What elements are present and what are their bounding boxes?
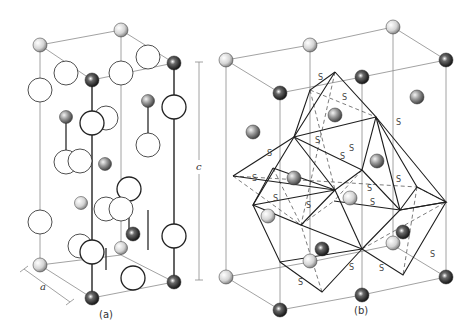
atom-sphere-mid bbox=[287, 171, 301, 185]
sulfur-label: S bbox=[396, 118, 401, 127]
sulfur-label: S bbox=[298, 278, 303, 287]
sulfur-label: S bbox=[315, 136, 320, 145]
atom-sphere-light bbox=[261, 209, 275, 223]
anion-open-circle bbox=[28, 78, 52, 102]
unit-cell-bottom-edge bbox=[40, 255, 174, 298]
anion-open-circle bbox=[80, 111, 104, 135]
sulfur-label: S bbox=[273, 194, 278, 203]
anion-open-circle bbox=[109, 61, 133, 85]
atom-sphere-dark bbox=[273, 303, 287, 317]
atom-sphere-mid bbox=[410, 90, 424, 104]
sulfur-label: S bbox=[342, 93, 347, 102]
anion-open-circle bbox=[136, 45, 160, 69]
atom-sphere-light bbox=[386, 236, 400, 250]
sulfur-label: S bbox=[340, 152, 345, 161]
atom-sphere-light bbox=[115, 242, 128, 255]
atom-sphere-light bbox=[33, 38, 47, 52]
sulfur-label: S bbox=[396, 175, 401, 184]
unit-cell-top-edge bbox=[226, 27, 446, 93]
atom-sphere-light bbox=[114, 23, 128, 37]
atom-sphere-light bbox=[303, 38, 317, 52]
sulfur-label: S bbox=[252, 174, 257, 183]
c-axis-dimension: c bbox=[193, 62, 205, 280]
atom-sphere-mid bbox=[142, 95, 155, 108]
anion-open-circle bbox=[54, 61, 78, 85]
atom-sphere-dark bbox=[355, 70, 369, 84]
anion-open-circle bbox=[162, 224, 186, 248]
anion-open-circle bbox=[121, 266, 145, 290]
atom-sphere-dark bbox=[439, 270, 453, 284]
sulfur-label: S bbox=[367, 184, 372, 193]
sulfur-label: S bbox=[318, 73, 323, 82]
atom-sphere-mid bbox=[246, 125, 260, 139]
octahedron-edge bbox=[233, 176, 335, 190]
panel-b-structure: SSSSSSSSSSSSSSSSS bbox=[219, 20, 453, 317]
atom-sphere-dark bbox=[126, 227, 140, 241]
atom-sphere-light bbox=[33, 258, 47, 272]
octahedron-edge bbox=[233, 137, 294, 176]
atom-sphere-light bbox=[219, 270, 233, 284]
anion-open-circle bbox=[109, 197, 133, 221]
atom-sphere-dark bbox=[439, 53, 453, 67]
caption-b: (b) bbox=[354, 305, 368, 316]
panel-a-structure bbox=[28, 23, 186, 305]
atom-sphere-light bbox=[303, 254, 317, 268]
atom-sphere-dark bbox=[167, 56, 181, 70]
sulfur-label: S bbox=[267, 149, 272, 158]
sulfur-label: S bbox=[379, 264, 384, 273]
anion-open-circle bbox=[162, 95, 186, 119]
a-axis-label: a bbox=[40, 281, 46, 292]
anion-open-circle bbox=[68, 149, 92, 173]
atom-sphere-dark bbox=[167, 275, 181, 289]
atom-sphere-light bbox=[75, 197, 88, 210]
atom-sphere-dark bbox=[273, 86, 287, 100]
sulfur-label: S bbox=[370, 198, 375, 207]
atom-sphere-mid bbox=[99, 158, 112, 171]
atom-sphere-light bbox=[343, 191, 357, 205]
anion-open-circle bbox=[136, 133, 160, 157]
sulfur-label: S bbox=[349, 144, 354, 153]
atom-sphere-mid bbox=[370, 154, 384, 168]
atom-sphere-light bbox=[386, 20, 400, 34]
atom-sphere-mid bbox=[328, 108, 342, 122]
c-axis-label: c bbox=[196, 161, 202, 172]
atom-sphere-light bbox=[219, 53, 233, 67]
sulfur-label: S bbox=[430, 250, 435, 259]
a-axis-dimension: a bbox=[20, 266, 74, 305]
caption-a: (a) bbox=[99, 309, 113, 320]
atom-sphere-dark bbox=[85, 291, 99, 305]
atom-sphere-dark bbox=[355, 288, 369, 302]
anion-open-circle bbox=[28, 210, 52, 234]
sulfur-label: S bbox=[349, 263, 354, 272]
sulfur-label: S bbox=[306, 201, 311, 210]
crystal-structure-figure: SSSSSSSSSSSSSSSSS c a (a) (b) bbox=[0, 0, 476, 336]
atom-sphere-mid bbox=[60, 111, 73, 124]
anion-open-circle bbox=[80, 240, 104, 264]
atom-sphere-dark bbox=[315, 242, 329, 256]
atom-sphere-dark bbox=[396, 225, 410, 239]
atom-sphere-dark bbox=[85, 73, 99, 87]
